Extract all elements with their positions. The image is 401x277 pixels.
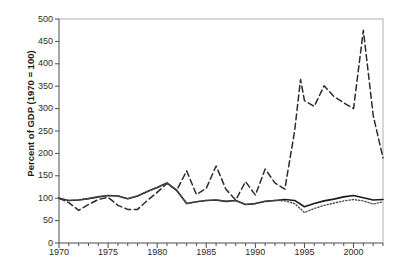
series-line-dashed-series bbox=[59, 30, 383, 210]
chart-figure: Percent of GDP (1970 = 100) 050100150200… bbox=[0, 0, 401, 277]
plot-canvas bbox=[0, 0, 401, 277]
series-line-dotted-series bbox=[59, 183, 383, 213]
